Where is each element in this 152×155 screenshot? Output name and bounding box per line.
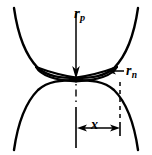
neck-radius-symbol: r: [126, 63, 131, 78]
sintering-neck-diagram: rp rn x: [0, 0, 152, 155]
lower-particle-outline: [14, 80, 76, 150]
neck-radius-label: rn: [126, 64, 137, 80]
lower-particle-outline-right: [76, 80, 138, 150]
neck-half-width-label: x: [91, 118, 98, 132]
particle-radius-subscript: p: [80, 12, 85, 23]
neck-radius-subscript: n: [132, 70, 137, 80]
upper-particle-outline: [14, 8, 76, 78]
neck-half-width-symbol: x: [91, 117, 98, 132]
particle-radius-label: rp: [74, 6, 85, 23]
particle-radius-symbol: r: [74, 5, 80, 21]
